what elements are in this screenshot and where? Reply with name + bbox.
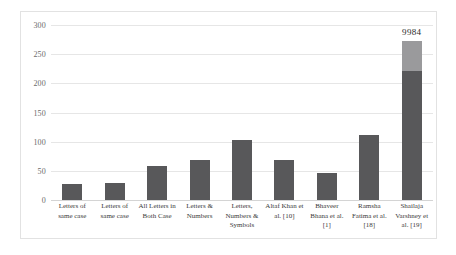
y-axis-tick-50: 50 <box>38 166 46 175</box>
y-axis-tick-250: 250 <box>33 50 46 59</box>
bar-segment-lower <box>105 183 125 200</box>
x-axis-label: Ramsha Fatima et al. [18] <box>348 202 390 231</box>
y-axis-tick-150: 150 <box>33 108 46 117</box>
bar-segment-lower <box>62 184 82 200</box>
bar-slot: 9984 <box>391 25 433 200</box>
bar[interactable] <box>402 41 422 200</box>
bar-segment-lower <box>147 166 167 200</box>
bar[interactable] <box>317 173 337 200</box>
bar[interactable] <box>62 184 82 200</box>
bar-segment-lower <box>232 140 252 200</box>
x-axis-label: Letters of same case <box>93 202 135 221</box>
chart-container: 300 250 200 150 100 50 0 9984 Letters of… <box>20 11 437 239</box>
bar-segment-lower <box>317 173 337 200</box>
y-axis-tick-100: 100 <box>33 137 46 146</box>
y-axis-tick-0: 0 <box>42 196 46 205</box>
bar[interactable] <box>274 160 294 200</box>
bar-value-label: 9984 <box>402 27 421 37</box>
gridline-0: 0 <box>51 200 433 201</box>
x-axis-label: Letters of same case <box>51 202 93 221</box>
bar-slot <box>51 25 93 200</box>
x-axis-labels: Letters of same caseLetters of same case… <box>51 202 433 231</box>
bar-segment-upper <box>402 41 422 70</box>
bar-slot <box>348 25 390 200</box>
bar[interactable] <box>190 160 210 200</box>
y-axis-tick-300: 300 <box>33 21 46 30</box>
bar[interactable] <box>147 166 167 200</box>
bar-slot <box>178 25 220 200</box>
x-axis-label: Altaf Khan et al. [10] <box>263 202 305 221</box>
bar-slot <box>136 25 178 200</box>
x-axis-label: Shailaja Varshney et al. [19] <box>391 202 433 231</box>
bar-slot <box>306 25 348 200</box>
bar[interactable] <box>105 183 125 200</box>
plot-area: 300 250 200 150 100 50 0 9984 <box>51 25 433 200</box>
bar-slot <box>221 25 263 200</box>
bar[interactable] <box>359 135 379 200</box>
bar-segment-lower <box>274 160 294 200</box>
bar-series: 9984 <box>51 25 433 200</box>
x-axis-label: Bhaveer Bhana et al. [1] <box>306 202 348 231</box>
bar-slot <box>263 25 305 200</box>
y-axis-tick-200: 200 <box>33 79 46 88</box>
x-axis-label: Letters, Numbers & Symbols <box>221 202 263 231</box>
bar[interactable] <box>232 140 252 200</box>
bar-segment-lower <box>190 160 210 200</box>
bar-segment-lower <box>402 71 422 201</box>
x-axis-label: Letters & Numbers <box>178 202 220 221</box>
bar-segment-lower <box>359 135 379 200</box>
x-axis-label: All Letters in Both Case <box>136 202 178 221</box>
bar-slot <box>93 25 135 200</box>
